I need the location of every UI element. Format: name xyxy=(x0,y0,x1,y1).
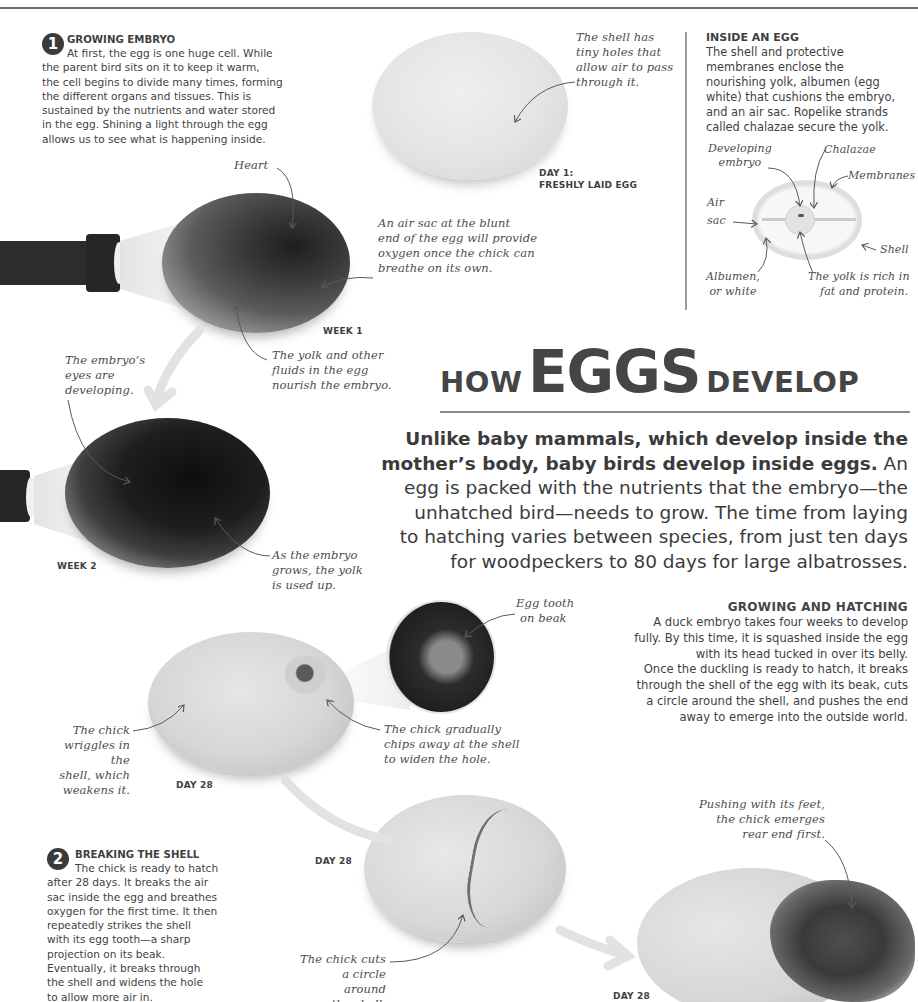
step-text-line: repeatedly strikes the shell xyxy=(47,918,247,932)
step-text-line: in the egg. Shining a light through the … xyxy=(42,117,332,131)
diagram-label-embryo: Developing embryo xyxy=(708,142,772,170)
egg-day28-pipping-image xyxy=(148,632,354,774)
egg-day1-image xyxy=(372,32,568,180)
step-text-line: At first, the egg is one huge cell. Whil… xyxy=(42,46,332,60)
title-rule xyxy=(440,411,910,413)
diagram-label-albumen: Albumen, or white xyxy=(706,269,760,299)
step-text-line: the different organs and tissues. This i… xyxy=(42,89,332,103)
diagram-label-yolk: The yolk is rich in fat and protein. xyxy=(808,269,910,299)
annotation-wriggles: The chick wriggles in the shell, which w… xyxy=(45,723,130,798)
diagram-label-membranes: Membranes xyxy=(848,168,915,183)
sidebar-divider xyxy=(685,32,687,310)
label-day28-b: DAY 28 xyxy=(315,855,352,867)
annotation-pushing: Pushing with its feet, the chick emerges… xyxy=(690,797,825,842)
diagram-label-chalazae: Chalazae xyxy=(824,142,876,157)
hatching-text-line: fully. By this time, it is squashed insi… xyxy=(600,631,908,647)
title-suffix: DEVELOP xyxy=(706,365,859,399)
annotation-eyes: The embryo’s eyes are developing. xyxy=(65,353,145,398)
step-text-line: projection on its beak. xyxy=(47,947,247,961)
label-week1: WEEK 1 xyxy=(323,325,363,337)
annotation-chips: The chick gradually chips away at the sh… xyxy=(384,722,520,767)
step-text-line: oxygen for the first time. It then xyxy=(47,904,247,918)
sidebar-text-line: nourishing yolk, albumen (egg xyxy=(706,75,918,90)
step-text-line: the parent bird sits on it to keep it wa… xyxy=(42,60,332,74)
annotation-shell-holes: The shell has tiny holes that allow air … xyxy=(576,30,673,90)
sidebar-text-line: membranes enclose the xyxy=(706,60,918,75)
egg-diagram-yolk xyxy=(785,205,815,235)
step-heading: GROWING EMBRYO xyxy=(42,33,332,46)
sidebar-text-line: called chalazae secure the yolk. xyxy=(706,120,918,135)
annotation-air-sac: An air sac at the blunt end of the egg w… xyxy=(378,216,537,276)
step-text-line: sustained by the nutrients and water sto… xyxy=(42,103,332,117)
step-text-line: sac inside the egg and breathes xyxy=(47,890,247,904)
egg-week1-candled-image xyxy=(162,193,350,333)
hatching-text-line: through the shell of the egg with its be… xyxy=(600,678,908,694)
annotation-heart: Heart xyxy=(234,158,268,173)
annotation-cuts-circle: The chick cuts a circle around the shell… xyxy=(300,952,386,1002)
step-text-line: Eventually, it breaks through xyxy=(47,961,247,975)
annotation-yolk-used: As the embryo grows, the yolk is used up… xyxy=(272,548,363,593)
egg-pip-hole xyxy=(285,656,329,694)
step-growing-embryo: 1 GROWING EMBRYO At first, the egg is on… xyxy=(42,33,332,146)
sidebar-text-line: The shell and protective xyxy=(706,45,918,60)
hatching-text-line: Once the duckling is ready to hatch, it … xyxy=(600,662,908,678)
hatching-section: GROWING AND HATCHING A duck embryo takes… xyxy=(600,600,908,726)
top-rule xyxy=(0,7,918,9)
label-day28-c: DAY 28 xyxy=(613,990,650,1002)
step-heading: BREAKING THE SHELL xyxy=(47,848,247,861)
step-text-line: after 28 days. It breaks the air xyxy=(47,875,247,889)
egg-diagram-embryo xyxy=(798,214,804,217)
hatching-text-line: A duck embryo takes four weeks to develo… xyxy=(600,615,908,631)
step-text-line: with its egg tooth—a sharp xyxy=(47,932,247,946)
label-day28-a: DAY 28 xyxy=(176,779,213,791)
step-text-line: to allow more air in. xyxy=(47,990,247,1002)
diagram-label-shell: Shell xyxy=(880,242,909,257)
intro-paragraph: Unlike baby mammals, which develop insid… xyxy=(380,427,908,574)
egg-tooth-closeup-image xyxy=(388,602,494,712)
step-text-line: The chick is ready to hatch xyxy=(47,861,247,875)
hatching-text-line: away to emerge into the outside world. xyxy=(600,710,908,726)
sidebar-text-line: and an air sac. Ropelike strands xyxy=(706,105,918,120)
diagram-label-air-sac: Air sac xyxy=(707,194,726,230)
title-prefix: HOW xyxy=(440,365,522,399)
sidebar-text-line: white) that cushions the embryo, xyxy=(706,90,918,105)
hatching-text-line: with its head tucked in over its belly. xyxy=(600,647,908,663)
hatching-text-line: a circle around the shell, and pushes th… xyxy=(600,694,908,710)
title-main: EGGS xyxy=(528,338,701,406)
label-week2: WEEK 2 xyxy=(57,560,97,572)
egg-week2-candled-image xyxy=(65,418,270,568)
step-text-line: the cell begins to divide many times, fo… xyxy=(42,75,332,89)
annotation-yolk-fluids: The yolk and other fluids in the egg nou… xyxy=(272,348,392,393)
step-text-line: the shell and widens the hole xyxy=(47,975,247,989)
flashlight-icon xyxy=(0,241,90,285)
hatching-heading: GROWING AND HATCHING xyxy=(600,600,908,615)
sidebar-inside-an-egg: INSIDE AN EGG The shell and protective m… xyxy=(706,31,918,135)
page-title: HOW EGGS DEVELOP xyxy=(440,338,859,406)
label-day1: DAY 1: FRESHLY LAID EGG xyxy=(539,167,637,191)
sidebar-heading: INSIDE AN EGG xyxy=(706,31,918,45)
step-text-line: allows us to see what is happening insid… xyxy=(42,132,332,146)
annotation-egg-tooth: Egg tooth on beak xyxy=(516,596,574,626)
step-breaking-shell: 2 BREAKING THE SHELL The chick is ready … xyxy=(47,848,247,1002)
step-number-badge: 1 xyxy=(42,33,64,55)
step-number-badge: 2 xyxy=(47,848,69,870)
